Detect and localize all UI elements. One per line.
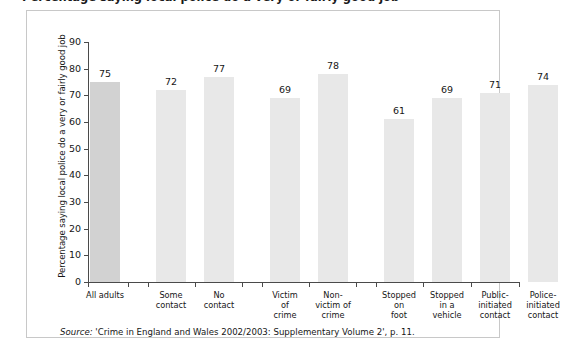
category-label: All adults (74, 290, 136, 300)
bar: 71 (480, 93, 510, 282)
y-tick-40: 40 (84, 175, 88, 176)
category-label-line: Non- (311, 290, 355, 300)
category-label-line: Stopped (377, 290, 421, 300)
bar: 69 (432, 98, 462, 282)
y-tick-20: 20 (84, 229, 88, 230)
bar: 75 (90, 82, 120, 282)
x-tick-group-1-end (242, 283, 243, 287)
y-tick-label: 30 (69, 196, 81, 207)
y-tick-label: 20 (69, 223, 81, 234)
y-tick-label: 0 (75, 276, 81, 287)
category-label: Nocontact (197, 290, 241, 310)
category-label-line: of (263, 300, 307, 310)
bar-value-label: 61 (393, 105, 405, 116)
bar-value-label: 77 (213, 63, 225, 74)
category-label-line: Some (149, 290, 193, 300)
category-label-line: All adults (74, 290, 136, 300)
category-label: Non-victim ofcrime (311, 290, 355, 320)
category-label-line: contact (521, 310, 564, 320)
category-label-line: foot (377, 310, 421, 320)
category-label: Somecontact (149, 290, 193, 310)
bar-value-label: 78 (327, 60, 339, 71)
bar-value-label: 74 (537, 71, 549, 82)
y-tick-60: 60 (84, 122, 88, 123)
x-tick-inner-3-2 (519, 283, 520, 287)
chart-frame: Percentage saying local police do a very… (26, 10, 500, 338)
category-label-line: crime (311, 310, 355, 320)
category-label-line: crime (263, 310, 307, 320)
bar: 77 (204, 77, 234, 282)
y-tick-50: 50 (84, 149, 88, 150)
category-label-line: Victim (263, 290, 307, 300)
y-axis-line (88, 42, 89, 283)
y-tick-label: 60 (69, 116, 81, 127)
bar: 72 (156, 90, 186, 282)
category-label: Stoppedin avehicle (425, 290, 469, 320)
y-tick-label: 90 (69, 36, 81, 47)
y-axis-title-text: Percentage saying local police do a very… (57, 25, 67, 287)
bar: 74 (528, 85, 558, 282)
x-tick-inner-3-0 (423, 283, 424, 287)
category-label-line: Public- (473, 290, 517, 300)
x-tick-group-3-start (376, 283, 377, 287)
y-tick-30: 30 (84, 202, 88, 203)
x-tick-group-1-start (148, 283, 149, 287)
bar-value-label: 72 (165, 76, 177, 87)
y-tick-label: 40 (69, 169, 81, 180)
category-label-line: contact (473, 310, 517, 320)
category-label-line: vehicle (425, 310, 469, 320)
y-tick-label: 10 (69, 249, 81, 260)
y-tick-80: 80 (84, 69, 88, 70)
bar: 78 (318, 74, 348, 282)
x-tick-group-2-start (262, 283, 263, 287)
category-label-line: initiated (473, 300, 517, 310)
category-label-line: contact (197, 300, 241, 310)
y-tick-label: 80 (69, 63, 81, 74)
source-prefix: Source: (60, 327, 93, 337)
y-tick-label: 70 (69, 89, 81, 100)
figure-title-text: Percentage saying local police do a very… (22, 0, 399, 4)
x-tick-inner-2-0 (309, 283, 310, 287)
figure-title-clipped: Percentage saying local police do a very… (0, 0, 516, 10)
y-tick-10: 10 (84, 255, 88, 256)
y-axis-title: Percentage saying local police do a very… (57, 0, 69, 25)
bar-value-label: 71 (489, 79, 501, 90)
x-tick-inner-1-0 (195, 283, 196, 287)
category-label-line: Stopped (425, 290, 469, 300)
category-label: Stoppedonfoot (377, 290, 421, 320)
category-label-line: victim of (311, 300, 355, 310)
y-tick-label: 50 (69, 143, 81, 154)
category-label: Police-initiatedcontact (521, 290, 564, 320)
y-tick-90: 90 (84, 42, 88, 43)
bar: 69 (270, 98, 300, 282)
x-tick-group-0-start (88, 283, 89, 287)
category-label: Victimofcrime (263, 290, 307, 320)
category-label-line: Police- (521, 290, 564, 300)
bar-value-label: 75 (99, 68, 111, 79)
x-tick-inner-3-1 (471, 283, 472, 287)
category-label: Public-initiatedcontact (473, 290, 517, 320)
source-citation: 'Crime in England and Wales 2002/2003: S… (95, 327, 414, 337)
bar-value-label: 69 (441, 84, 453, 95)
x-tick-group-0-end (128, 283, 129, 287)
category-label-line: initiated (521, 300, 564, 310)
bar-value-label: 69 (279, 84, 291, 95)
x-tick-group-2-end (356, 283, 357, 287)
bar: 61 (384, 119, 414, 282)
category-label-line: contact (149, 300, 193, 310)
x-axis-line (88, 282, 520, 283)
source-note: Source: 'Crime in England and Wales 2002… (60, 327, 415, 337)
plot-area: 0102030405060708090 757277697861697174 A… (88, 42, 520, 282)
category-label-line: on (377, 300, 421, 310)
category-label-line: No (197, 290, 241, 300)
y-tick-70: 70 (84, 95, 88, 96)
category-label-line: in a (425, 300, 469, 310)
